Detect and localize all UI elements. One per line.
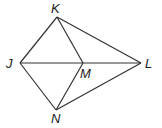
segment-kj	[20, 17, 57, 63]
geometry-diagram: K J M L N	[0, 0, 162, 128]
label-n: N	[51, 111, 61, 126]
segments	[20, 17, 141, 110]
label-k: K	[51, 1, 61, 16]
label-j: J	[5, 56, 13, 71]
segment-jn	[20, 63, 56, 110]
segment-nl	[56, 63, 141, 110]
label-m: M	[80, 66, 91, 81]
label-l: L	[145, 56, 152, 71]
